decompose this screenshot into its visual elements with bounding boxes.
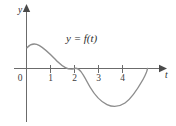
- y-axis-label: y: [17, 5, 23, 15]
- function-plot: y t 0 1 2 3 4 y = f(t): [0, 0, 176, 126]
- t-axis-label: t: [165, 70, 168, 80]
- function-curve: [27, 44, 148, 106]
- tick-label-4: 4: [120, 73, 125, 83]
- figure-container: y t 0 1 2 3 4 y = f(t): [0, 0, 176, 126]
- origin-label: 0: [18, 73, 23, 83]
- tick-label-1: 1: [48, 73, 53, 83]
- curve-equation-label: y = f(t): [65, 32, 98, 45]
- tick-label-2: 2: [72, 73, 77, 83]
- y-axis-arrow-icon: [23, 4, 30, 12]
- tick-label-3: 3: [96, 73, 101, 83]
